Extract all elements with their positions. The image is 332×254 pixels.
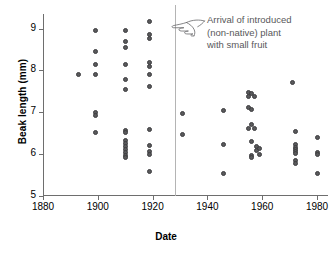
x-tick — [98, 195, 99, 200]
data-point — [123, 87, 128, 92]
data-point — [147, 143, 152, 148]
data-point — [123, 28, 128, 33]
x-tick-label: 1940 — [196, 201, 218, 212]
x-tick — [43, 195, 44, 200]
y-tick-label: 8 — [30, 63, 36, 74]
data-point — [147, 169, 152, 174]
x-tick — [262, 195, 263, 200]
y-tick-label: 9 — [30, 22, 36, 33]
y-axis-label: Beak length (mm) — [17, 32, 28, 172]
y-axis-line — [43, 14, 44, 196]
data-point — [123, 155, 128, 160]
data-point — [147, 72, 152, 77]
data-point — [123, 62, 128, 67]
data-point — [249, 107, 254, 112]
y-tick: 6 — [39, 154, 44, 155]
data-point — [147, 64, 152, 69]
data-point — [221, 171, 226, 176]
x-tick-label: 1980 — [306, 201, 328, 212]
x-tick — [153, 195, 154, 200]
x-tick-label: 1900 — [87, 201, 109, 212]
data-point — [93, 113, 98, 118]
data-point — [315, 152, 320, 157]
data-point — [123, 45, 128, 50]
data-point — [147, 19, 152, 24]
data-point — [293, 129, 298, 134]
annotation-text: Arrival of introduced (non-native) plant… — [207, 14, 329, 52]
data-point — [252, 126, 257, 131]
data-point — [293, 161, 298, 166]
data-point — [293, 151, 298, 156]
data-point — [290, 80, 295, 85]
data-point — [180, 111, 185, 116]
data-point — [147, 84, 152, 89]
annotation-line-2: (non-native) plant — [207, 27, 329, 40]
y-tick-label: 7 — [30, 105, 36, 116]
data-point — [93, 62, 98, 67]
x-tick — [317, 195, 318, 200]
annotation-line-3: with small fruit — [207, 39, 329, 52]
scatter-plot-figure: Beak length (mm) Date 56789 188019001920… — [0, 0, 332, 254]
x-tick — [207, 195, 208, 200]
y-tick: 7 — [39, 112, 44, 113]
y-tick-label: 6 — [30, 147, 36, 158]
data-point — [123, 39, 128, 44]
data-point — [93, 49, 98, 54]
data-point — [315, 171, 320, 176]
x-tick-label: 1920 — [141, 201, 163, 212]
data-point — [257, 152, 262, 157]
x-tick-label: 1880 — [32, 201, 54, 212]
data-point — [93, 130, 98, 135]
x-axis-label: Date — [0, 231, 332, 242]
data-point — [147, 127, 152, 132]
data-point — [147, 36, 152, 41]
data-point — [221, 108, 226, 113]
pointing-hand-icon — [170, 17, 206, 37]
data-point — [123, 77, 128, 82]
annotation-line-1: Arrival of introduced — [207, 14, 329, 27]
data-point — [147, 152, 152, 157]
y-tick: 8 — [39, 70, 44, 71]
data-point — [180, 132, 185, 137]
data-point — [76, 72, 81, 77]
data-point — [221, 142, 226, 147]
data-point — [249, 155, 254, 160]
x-axis-line — [43, 195, 328, 196]
x-tick-label: 1960 — [251, 201, 273, 212]
data-point — [315, 135, 320, 140]
data-point — [252, 94, 257, 99]
data-point — [93, 72, 98, 77]
data-point — [93, 28, 98, 33]
data-point — [257, 146, 262, 151]
data-point — [123, 130, 128, 135]
data-point — [249, 139, 254, 144]
y-tick: 9 — [39, 29, 44, 30]
y-tick-label: 5 — [30, 189, 36, 200]
